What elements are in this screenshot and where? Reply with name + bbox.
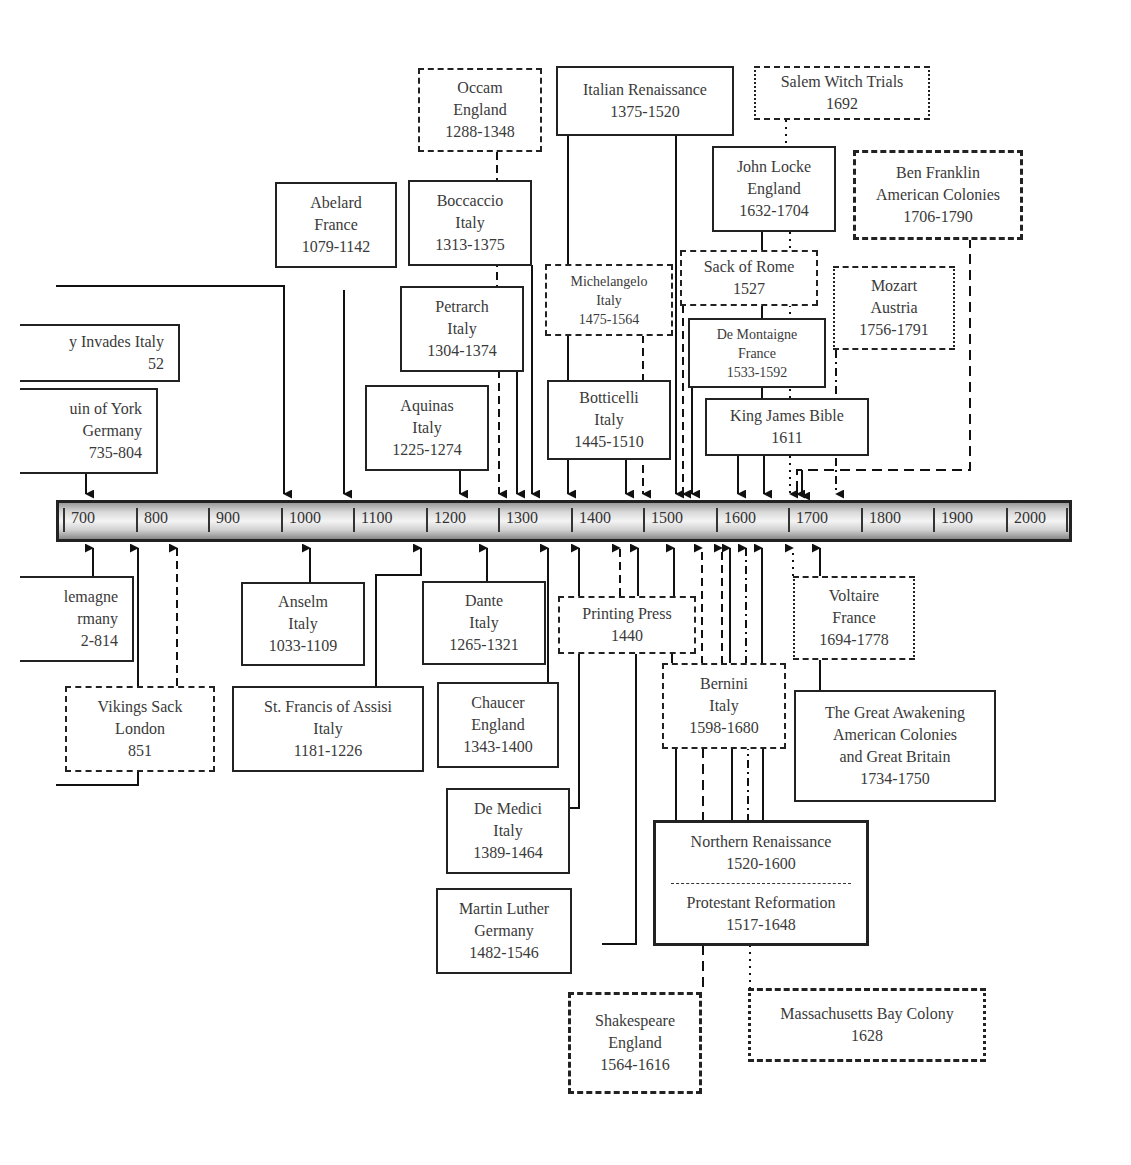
- event-text-line: Dante: [465, 590, 503, 612]
- timeline-tick-label: 1100: [361, 509, 392, 527]
- event-text-line: 52: [148, 353, 164, 375]
- event-john-locke: John LockeEngland1632-1704: [712, 146, 836, 232]
- timeline-tick-label: 1400: [579, 509, 611, 527]
- event-text-line: The Great Awakening: [825, 702, 965, 724]
- timeline-tick: [426, 508, 428, 532]
- event-text-line: 1756-1791: [859, 319, 928, 341]
- event-text-line: Abelard: [310, 192, 362, 214]
- event-text-line: Italy: [447, 318, 476, 340]
- event-text-line: Italy: [412, 417, 441, 439]
- event-printing-press: Printing Press1440: [558, 596, 696, 654]
- event-text-line: 1440: [611, 625, 643, 647]
- event-massachusetts-bay-colony: Massachusetts Bay Colony1628: [748, 988, 986, 1062]
- event-text-line: Mozart: [871, 275, 917, 297]
- event-text-line: Italy: [313, 718, 342, 740]
- event-text-line: 1181-1226: [294, 740, 363, 762]
- event-text-line: De Medici: [474, 798, 542, 820]
- event-text-line: 735-804: [89, 442, 142, 464]
- event-michelangelo: MichelangeloItaly1475-1564: [545, 264, 673, 336]
- event-st-francis: St. Francis of AssisiItaly1181-1226: [232, 686, 424, 772]
- event-text-line: Botticelli: [579, 387, 639, 409]
- event-text-line: Petrarch: [435, 296, 488, 318]
- event-text-line: 1564-1616: [600, 1054, 669, 1076]
- event-text-line: Italy: [594, 409, 623, 431]
- event-text-line: Italy: [469, 612, 498, 634]
- timeline-tick: [208, 508, 210, 532]
- event-aquinas: AquinasItaly1225-1274: [365, 385, 489, 471]
- event-text-line: rmany: [77, 608, 118, 630]
- event-text-line: Bernini: [700, 673, 748, 695]
- event-text-line: Michelangelo: [571, 272, 648, 291]
- event-alcuin-of-york: uin of YorkGermany735-804: [20, 388, 158, 474]
- event-text-line: 1375-1520: [610, 101, 679, 123]
- event-de-medici: De MediciItaly1389-1464: [446, 788, 570, 874]
- event-text-line: Italy: [455, 212, 484, 234]
- event-text-line: England: [608, 1032, 661, 1054]
- event-ben-franklin: Ben FranklinAmerican Colonies1706-1790: [853, 150, 1023, 240]
- event-text-line: 1598-1680: [689, 717, 758, 739]
- event-italian-renaissance: Italian Renaissance1375-1520: [556, 66, 734, 136]
- event-text-line: Austria: [870, 297, 917, 319]
- event-text-line: Voltaire: [829, 585, 879, 607]
- event-text-line: France: [314, 214, 358, 236]
- event-text-line: Germany: [474, 920, 534, 942]
- timeline-tick-label: 1300: [506, 509, 538, 527]
- timeline-tick-label: 1900: [941, 509, 973, 527]
- event-text-line: Protestant Reformation: [687, 892, 836, 914]
- event-text-line: Printing Press: [582, 603, 671, 625]
- event-text-line: Massachusetts Bay Colony: [780, 1003, 953, 1025]
- event-text-line: 1533-1592: [727, 363, 788, 382]
- event-text-line: 1632-1704: [739, 200, 808, 222]
- event-text-line: y Invades Italy: [69, 331, 164, 353]
- divider: [671, 883, 852, 884]
- event-text-line: lemagne: [64, 586, 118, 608]
- event-text-line: 1520-1600: [726, 853, 795, 875]
- event-petrarch: PetrarchItaly1304-1374: [400, 286, 524, 372]
- event-invades-italy: y Invades Italy52: [20, 324, 180, 382]
- event-text-line: England: [453, 99, 506, 121]
- event-text-line: 1225-1274: [392, 439, 461, 461]
- event-mozart: MozartAustria1756-1791: [833, 266, 955, 350]
- timeline-tick: [716, 508, 718, 532]
- event-voltaire: VoltaireFrance1694-1778: [793, 576, 915, 660]
- event-salem-witch-trials: Salem Witch Trials1692: [754, 66, 930, 120]
- timeline-tick-label: 1800: [869, 509, 901, 527]
- event-king-james-bible: King James Bible1611: [705, 398, 869, 456]
- event-text-line: Martin Luther: [459, 898, 549, 920]
- event-text-line: 1734-1750: [860, 768, 929, 790]
- timeline-tick: [63, 508, 65, 532]
- event-text-line: American Colonies: [833, 724, 957, 746]
- timeline-tick: [861, 508, 863, 532]
- timeline-diagram: 7008009001000110012001300140015001600170…: [0, 0, 1131, 1165]
- timeline-tick-label: 900: [216, 509, 240, 527]
- event-botticelli: BotticelliItaly1445-1510: [547, 380, 671, 460]
- event-text-line: Vikings Sack: [98, 696, 183, 718]
- event-text-line: and Great Britain: [839, 746, 950, 768]
- event-text-line: Italy: [493, 820, 522, 842]
- event-text-line: 1611: [771, 427, 802, 449]
- timeline-tick-label: 1700: [796, 509, 828, 527]
- event-text-line: 1706-1790: [903, 206, 972, 228]
- event-vikings-sack-london: Vikings SackLondon851: [65, 686, 215, 772]
- event-text-line: 1475-1564: [579, 310, 640, 329]
- event-text-line: 1288-1348: [445, 121, 514, 143]
- timeline-tick: [571, 508, 573, 532]
- event-text-line: 1079-1142: [302, 236, 371, 258]
- event-text-line: Salem Witch Trials: [781, 71, 904, 93]
- timeline-tick: [498, 508, 500, 532]
- event-text-line: France: [738, 344, 776, 363]
- event-martin-luther: Martin LutherGermany1482-1546: [436, 888, 572, 974]
- event-bernini: BerniniItaly1598-1680: [662, 663, 786, 749]
- event-sack-of-rome: Sack of Rome1527: [680, 250, 818, 306]
- event-text-line: 1628: [851, 1025, 883, 1047]
- timeline-tick-label: 1600: [724, 509, 756, 527]
- event-abelard: AbelardFrance1079-1142: [275, 182, 397, 268]
- event-great-awakening: The Great AwakeningAmerican Coloniesand …: [794, 690, 996, 802]
- event-text-line: Italy: [596, 291, 622, 310]
- timeline-tick: [788, 508, 790, 532]
- event-text-line: Ben Franklin: [896, 162, 980, 184]
- event-dante: DanteItaly1265-1321: [422, 581, 546, 665]
- event-text-line: Boccaccio: [437, 190, 504, 212]
- timeline-tick-label: 1500: [651, 509, 683, 527]
- event-text-line: Northern Renaissance: [691, 831, 832, 853]
